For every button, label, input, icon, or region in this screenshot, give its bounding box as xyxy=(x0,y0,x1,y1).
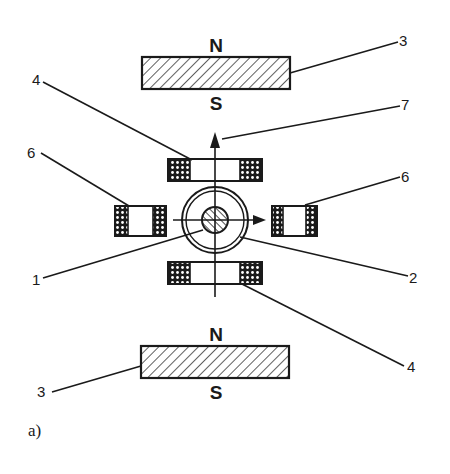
callout-3-bottom: 3 xyxy=(37,383,45,400)
callout-6-right: 6 xyxy=(401,168,409,185)
right-coil xyxy=(272,206,317,236)
vertical-arrow-icon xyxy=(210,132,220,148)
bottom-magnet-north-label: N xyxy=(209,324,223,345)
top-magnet-south-label: S xyxy=(210,93,223,114)
bottom-magnet: N S xyxy=(141,324,289,403)
callout-7: 7 xyxy=(401,96,409,113)
callout-4-bottom: 4 xyxy=(407,358,415,375)
callout-1: 1 xyxy=(32,271,40,288)
top-magnet-north-label: N xyxy=(209,35,223,56)
callout-4-top: 4 xyxy=(32,71,40,88)
callout-2: 2 xyxy=(409,269,417,286)
horizontal-arrow-icon xyxy=(253,215,266,225)
callout-6-left: 6 xyxy=(27,144,35,161)
left-coil xyxy=(115,206,166,236)
bottom-magnet-south-label: S xyxy=(210,382,223,403)
magnet-diagram: N S N S xyxy=(0,0,450,474)
callout-3-top: 3 xyxy=(399,32,407,49)
top-magnet: N S xyxy=(142,35,290,114)
figure-caption: a) xyxy=(28,421,41,440)
